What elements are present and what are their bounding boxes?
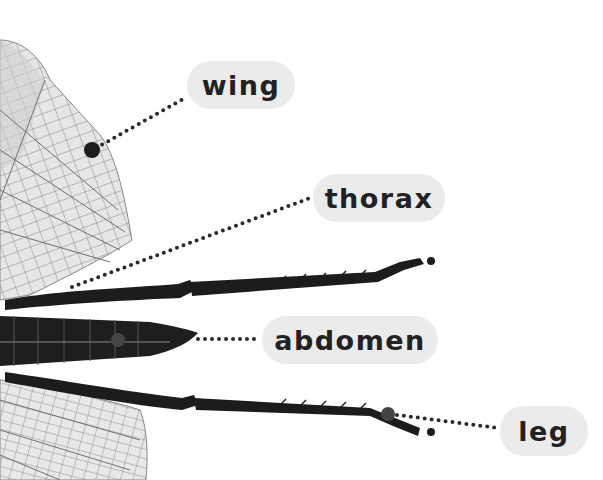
label-thorax: thorax [313,174,445,222]
label-thorax-text: thorax [325,183,434,214]
upper-wing [0,40,132,300]
wing-anchor-dot [84,142,100,158]
label-wing-text: wing [202,70,281,101]
label-leg: leg [500,406,588,456]
leg-anchor-dot [381,407,395,421]
abdomen-body [0,316,198,366]
label-leg-text: leg [518,416,569,447]
label-abdomen: abdomen [262,316,438,364]
abdomen-anchor-dot [111,333,125,347]
wing-leader [96,98,185,148]
label-abdomen-text: abdomen [274,325,426,356]
label-wing: wing [187,61,295,109]
